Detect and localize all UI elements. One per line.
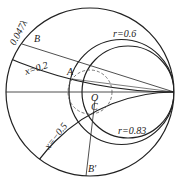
label-x-neg-0.5: x=−0.5	[41, 120, 69, 152]
label-C: C	[91, 101, 98, 112]
label-Bprime: B′	[88, 163, 97, 174]
line-A-to-C	[72, 79, 174, 92]
label-r-0.83: r=0.83	[118, 125, 146, 136]
label-x-0.2: x=0.2	[22, 59, 49, 77]
label-wavelength: 0.047λ	[7, 17, 30, 46]
x-0.2-arc	[0, 0, 178, 92]
smith-chart: 0.047λ B x=0.2 A r=0.6 O C r=0.83 x=−0.5…	[0, 0, 178, 185]
label-B: B	[34, 33, 40, 44]
label-r-0.6: r=0.6	[113, 28, 136, 39]
label-A: A	[66, 66, 74, 77]
